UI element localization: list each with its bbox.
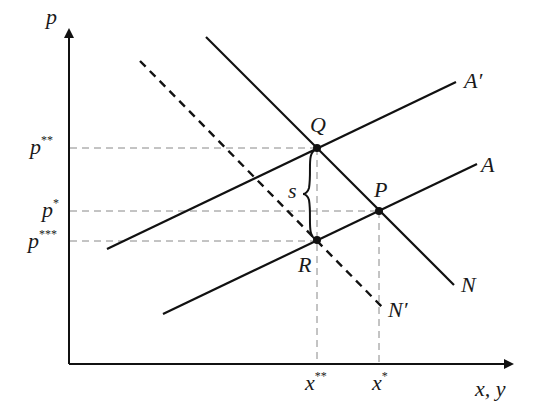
label-A-prime: A′ [464,70,482,92]
tick-p-double-star: p** [30,136,53,158]
tick-p-triple-star: p*** [28,230,57,252]
diagram-svg [0,0,533,414]
label-s: s [288,180,297,202]
curve-N [206,37,454,285]
brace-s [303,149,317,240]
diagram-canvas: p x, y p** p* p*** x** x* A A′ N N′ Q P … [0,0,533,414]
guide-lines [70,148,379,364]
label-R: R [298,254,311,276]
y-axis-label: p [46,6,57,28]
label-N: N [461,274,476,296]
point-R [313,236,321,244]
label-A: A [481,154,494,176]
tick-x-star: x* [372,372,388,394]
curve-N-prime [140,61,385,310]
curve-A-prime [107,82,456,249]
tick-p-star: p* [42,199,59,221]
label-N-prime: N′ [388,299,408,321]
x-axis-label: x, y [475,378,506,400]
label-Q: Q [310,114,326,136]
point-P [375,207,383,215]
tick-x-double-star: x** [305,372,327,394]
point-Q [313,144,321,152]
label-P: P [374,179,387,201]
